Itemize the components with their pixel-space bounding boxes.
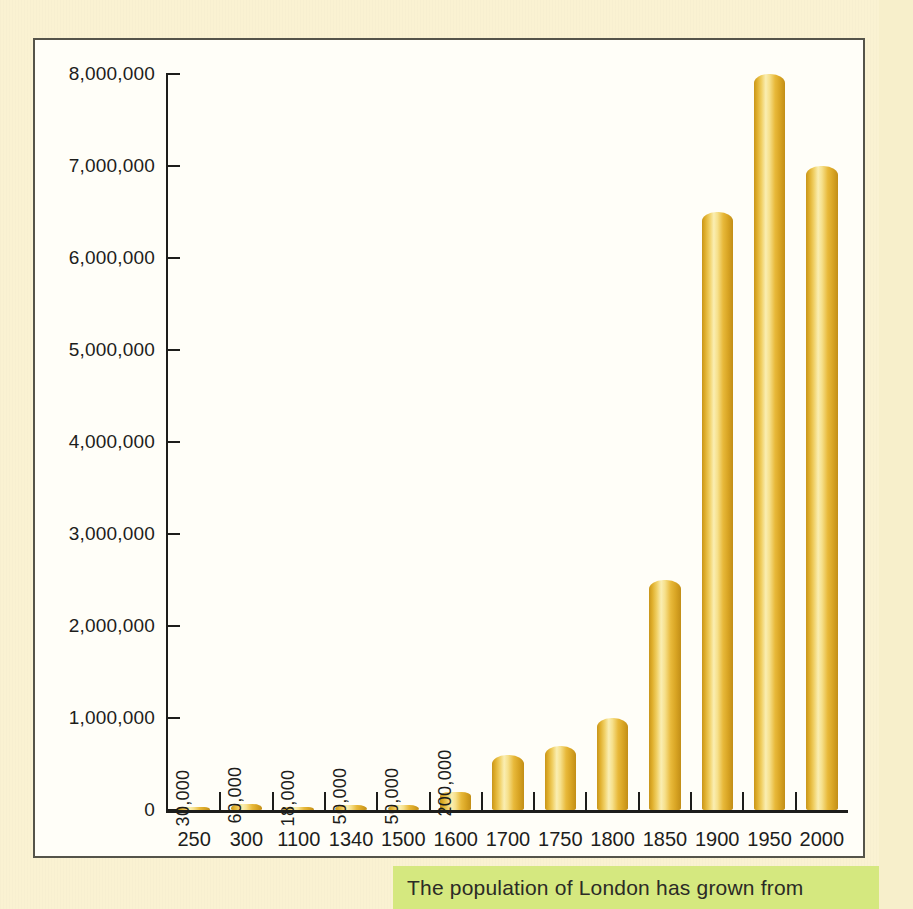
bar-value-label: 30,000 [173, 770, 194, 827]
x-axis-label: 1600 [430, 828, 482, 851]
bar-slot [754, 74, 785, 810]
bar[interactable] [545, 746, 576, 810]
bar-value-label: 60,000 [225, 767, 246, 824]
bar[interactable] [492, 755, 523, 810]
x-axis-label: 1500 [377, 828, 429, 851]
y-axis-label: 2,000,000 [47, 615, 155, 637]
y-axis-label: 7,000,000 [47, 155, 155, 177]
bar-slot [597, 74, 628, 810]
bar[interactable]: 50,000 [388, 805, 419, 810]
x-axis-label: 1800 [586, 828, 638, 851]
x-axis-label: 1100 [273, 828, 325, 851]
bar-slot: 18,000 [283, 74, 314, 810]
bar[interactable] [649, 580, 680, 810]
caption-band: The population of London has grown from [393, 866, 879, 909]
bar[interactable]: 50,000 [335, 805, 366, 810]
bar-value-label: 200,000 [435, 749, 456, 816]
y-axis-label: 6,000,000 [47, 247, 155, 269]
bar-slot [545, 74, 576, 810]
bar-slot: 30,000 [178, 74, 209, 810]
y-axis-label: 5,000,000 [47, 339, 155, 361]
bar[interactable] [754, 74, 785, 810]
x-axis-label: 1340 [325, 828, 377, 851]
x-axis-label: 2000 [796, 828, 848, 851]
bar[interactable] [597, 718, 628, 810]
x-axis-label: 1750 [534, 828, 586, 851]
bar-series: 30,00060,00018,00050,00050,000200,000 [168, 74, 848, 810]
x-axis-label: 1850 [639, 828, 691, 851]
plot-area: 01,000,0002,000,0003,000,0004,000,0005,0… [35, 40, 863, 856]
y-axis-label: 1,000,000 [47, 707, 155, 729]
x-axis-label: 250 [168, 828, 220, 851]
bar[interactable] [806, 166, 837, 810]
x-axis-label: 1700 [482, 828, 534, 851]
bar-slot: 60,000 [231, 74, 262, 810]
bar-value-label: 18,000 [278, 770, 299, 827]
bar-slot: 50,000 [388, 74, 419, 810]
bar-value-label: 50,000 [330, 768, 351, 825]
y-axis-label: 0 [47, 799, 155, 821]
bar[interactable]: 200,000 [440, 792, 471, 810]
bar-value-label: 50,000 [382, 768, 403, 825]
x-axis-label: 1950 [743, 828, 795, 851]
chart-panel: 01,000,0002,000,0003,000,0004,000,0005,0… [33, 38, 865, 858]
y-axis-label: 3,000,000 [47, 523, 155, 545]
bar-slot [806, 74, 837, 810]
bar-slot: 50,000 [335, 74, 366, 810]
y-axis-label: 4,000,000 [47, 431, 155, 453]
bar-slot [702, 74, 733, 810]
x-axis-label: 1900 [691, 828, 743, 851]
bar[interactable]: 18,000 [283, 807, 314, 810]
bar-slot: 200,000 [440, 74, 471, 810]
caption-text: The population of London has grown from [407, 876, 804, 900]
bar[interactable]: 30,000 [178, 807, 209, 810]
y-axis-label: 8,000,000 [47, 63, 155, 85]
x-axis-line [166, 810, 848, 813]
bar-slot [649, 74, 680, 810]
x-axis-label: 300 [220, 828, 272, 851]
bar-slot [492, 74, 523, 810]
bar[interactable]: 60,000 [231, 804, 262, 810]
bar[interactable] [702, 212, 733, 810]
page-right-margin [879, 0, 913, 909]
